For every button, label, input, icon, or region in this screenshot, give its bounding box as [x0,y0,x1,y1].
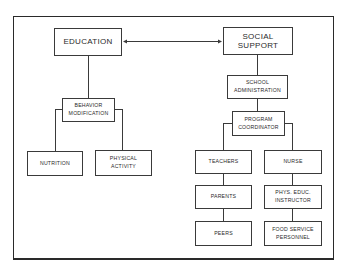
node-phys-educ-instructor: PHYS. EDUC. INSTRUCTOR [264,185,322,209]
arrowhead-left-icon [123,40,127,44]
connector-to-teachers [223,123,224,150]
node-physical-activity: PHYSICAL ACTIVITY [95,150,152,176]
node-peers: PEERS [195,221,252,246]
connector-parents-peers [223,208,224,221]
connector-to-nutrition [55,109,56,151]
node-behavior-modification: BEHAVIOR MODIFICATION [62,98,115,122]
node-social-support: SOCIAL SUPPORT [223,27,293,55]
arrowhead-right-icon [218,40,222,44]
connector-social-school [257,54,258,75]
node-education: EDUCATION [54,28,122,56]
node-nurse: NURSE [264,150,322,174]
connector-to-nurse [292,123,293,150]
connector-to-physical-activity [122,109,123,151]
node-program-coordinator: PROGRAM COORDINATOR [232,111,285,136]
connector-physeduc-food [292,208,293,221]
node-school-administration: SCHOOL ADMINISTRATION [227,75,288,99]
node-parents: PARENTS [195,185,252,209]
node-nutrition: NUTRITION [27,151,83,176]
connector-education-behavior [88,55,89,98]
connector-school-program [257,98,258,111]
node-food-service-personnel: FOOD SERVICE PERSONNEL [264,221,322,246]
connector-nurse-physeduc [292,173,293,185]
connector-teachers-parents [223,173,224,185]
node-teachers: TEACHERS [195,150,252,174]
